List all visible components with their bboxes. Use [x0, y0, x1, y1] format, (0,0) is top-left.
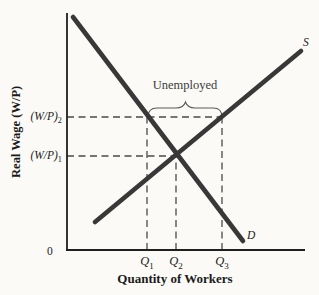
- x-tick-q2: Q2: [164, 255, 188, 269]
- x-tick-q1: Q1: [135, 255, 159, 269]
- y-tick-wage2-base: (W/P): [30, 110, 57, 122]
- demand-curve-label: D: [247, 229, 255, 242]
- x-tick-q1-base: Q: [140, 254, 149, 268]
- x-tick-q1-sub: 1: [149, 261, 154, 271]
- y-tick-wage1-base: (W/P): [30, 149, 57, 161]
- x-tick-q3: Q3: [210, 255, 234, 269]
- supply-curve: [95, 51, 301, 222]
- unemployed-annotation: Unemployed: [135, 79, 235, 93]
- x-tick-q3-sub: 3: [224, 261, 229, 271]
- y-axis-title: Real Wage (W/P): [10, 67, 24, 197]
- x-tick-q2-sub: 2: [178, 261, 183, 271]
- origin-label: 0: [47, 245, 53, 258]
- unemployment-brace: [148, 102, 222, 117]
- y-tick-wage2-sub: 2: [58, 116, 62, 125]
- y-tick-wage1-sub: 1: [58, 155, 62, 164]
- labor-market-diagram: Real Wage (W/P) Quantity of Workers (W/P…: [0, 0, 319, 295]
- supply-curve-label: S: [303, 36, 309, 49]
- x-tick-q3-base: Q: [215, 254, 224, 268]
- x-tick-q2-base: Q: [169, 254, 178, 268]
- demand-curve: [73, 17, 243, 241]
- y-tick-wage1: (W/P)1: [10, 149, 62, 162]
- x-axis-title: Quantity of Workers: [85, 272, 265, 286]
- y-tick-wage2: (W/P)2: [10, 110, 62, 123]
